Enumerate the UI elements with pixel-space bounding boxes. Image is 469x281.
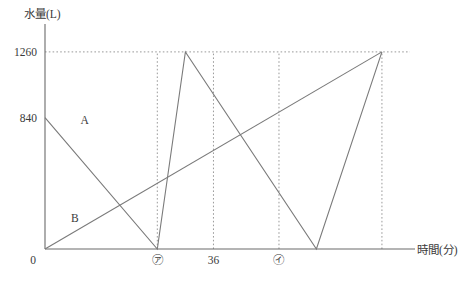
x-axis-title: 時間(分) [417,244,458,257]
series-label-A: A [80,114,89,126]
y-tick-label-840: 840 [20,112,38,124]
x-tick-label-50: ㋑ [273,254,285,266]
y-axis-title: 水量(L) [24,8,61,21]
series-label-B: B [71,212,79,224]
y-tick-label-1260: 1260 [14,46,37,58]
axes-layer [45,24,415,249]
water-volume-time-line-chart: 12608400㋐36㋑AB 水量(L) 時間(分) [0,0,469,281]
guide-lines-layer [45,52,410,249]
y-tick-label-0: 0 [30,254,36,266]
x-tick-label-36: 36 [208,254,220,266]
x-tick-label-24: ㋐ [152,254,164,266]
chart-figure: 12608400㋐36㋑AB 水量(L) 時間(分) [0,0,469,281]
labels-layer: 12608400㋐36㋑AB [14,46,285,266]
